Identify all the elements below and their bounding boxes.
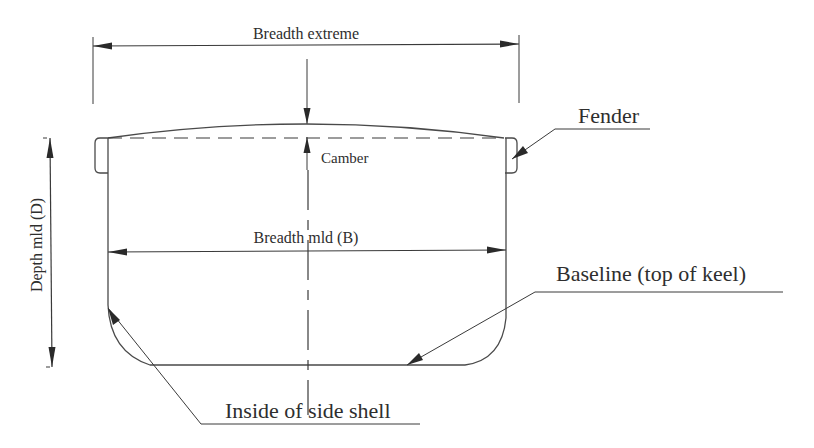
arrowhead-fender-icon xyxy=(512,146,528,159)
camber-indicator: Camber xyxy=(304,59,369,170)
diagram-canvas: Breadth extreme Camber Fender xyxy=(0,0,814,448)
arrowhead-up-icon xyxy=(47,138,54,158)
arrowhead-left-icon xyxy=(108,249,127,256)
breadth-mld-label: Breadth mld (B) xyxy=(254,229,359,247)
depth-mld-label: Depth mld (D) xyxy=(28,198,46,292)
arrowhead-baseline-icon xyxy=(407,353,423,365)
depth-mld-dimension: Depth mld (D) xyxy=(28,138,56,367)
fender-leader-line xyxy=(512,129,650,159)
deck-camber-curve xyxy=(108,124,504,138)
fender-left xyxy=(95,138,108,173)
breadth-extreme-dimension: Breadth extreme xyxy=(93,25,519,104)
baseline-leader-line xyxy=(407,292,783,365)
inside-side-shell-label: Inside of side shell xyxy=(225,398,391,423)
breadth-mld-dimension: Breadth mld (B) xyxy=(108,229,506,256)
baseline-label: Baseline (top of keel) xyxy=(556,261,746,286)
dimension-line xyxy=(93,44,519,46)
arrowhead-right-icon xyxy=(487,247,506,254)
baseline-callout: Baseline (top of keel) xyxy=(407,261,783,365)
camber-label: Camber xyxy=(321,150,368,166)
arrowhead-down-icon xyxy=(49,347,56,367)
fender-callout: Fender xyxy=(512,103,650,159)
inside-side-shell-callout: Inside of side shell xyxy=(108,308,420,424)
breadth-extreme-label: Breadth extreme xyxy=(253,25,359,42)
arrowhead-right-icon xyxy=(500,41,519,48)
arrowhead-down-icon xyxy=(304,108,311,124)
midship-section-diagram: Breadth extreme Camber Fender xyxy=(0,0,814,448)
depth-dimension-line xyxy=(50,138,52,367)
arrowhead-left-icon xyxy=(93,43,112,50)
breadth-mld-dimension-line xyxy=(108,250,506,252)
fender-label: Fender xyxy=(578,103,640,128)
arrowhead-up-icon xyxy=(304,137,311,153)
